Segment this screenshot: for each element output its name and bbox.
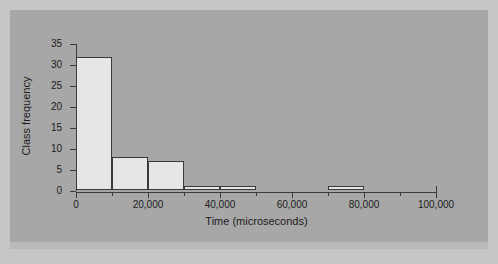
x-tick-mark-major	[364, 192, 365, 198]
x-tick-label: 80,000	[329, 199, 399, 210]
y-tick-label: 5	[0, 165, 62, 175]
x-tick-mark-major	[436, 192, 437, 198]
x-tick-mark-major	[76, 192, 77, 198]
figure-container: 05101520253035 020,00040,00060,00080,000…	[0, 0, 498, 264]
x-tick-mark-minor	[400, 192, 401, 196]
x-tick-label: 60,000	[257, 199, 327, 210]
y-tick-label: 0	[0, 186, 62, 196]
x-tick-mark-major	[292, 192, 293, 198]
histogram-bar	[112, 157, 148, 190]
histogram-bar	[148, 161, 184, 190]
x-tick-label: 20,000	[113, 199, 183, 210]
x-tick-mark-minor	[256, 192, 257, 196]
x-tick-mark-minor	[112, 192, 113, 196]
x-tick-mark-minor	[328, 192, 329, 196]
x-tick-label: 0	[41, 199, 111, 210]
histogram-bar	[76, 57, 112, 191]
x-tick-label: 100,000	[401, 199, 471, 210]
histogram-bar	[184, 186, 220, 190]
y-tick-mark	[70, 44, 76, 45]
histogram-bar	[328, 186, 364, 190]
y-axis-label: Class frequency	[20, 66, 32, 166]
x-tick-mark-minor	[184, 192, 185, 196]
x-tick-mark-major	[148, 192, 149, 198]
x-axis-label: Time (microseconds)	[76, 215, 437, 227]
x-tick-label: 40,000	[185, 199, 255, 210]
x-tick-mark-major	[220, 192, 221, 198]
y-tick-label: 35	[0, 39, 62, 49]
histogram-plot: 05101520253035 020,00040,00060,00080,000…	[0, 0, 498, 264]
histogram-bar	[220, 186, 256, 190]
